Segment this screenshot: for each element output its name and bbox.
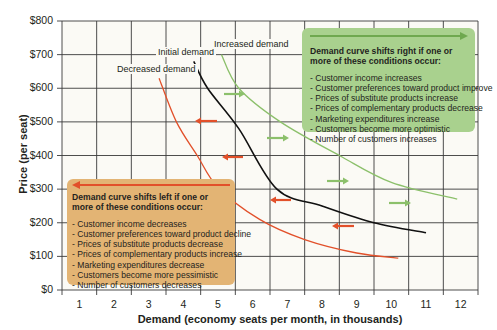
x-tick-label: 9 (347, 298, 367, 310)
left-shift-list: - Customer income decreases- Customer pr… (72, 219, 229, 291)
condition-item: - Customer preferences toward product de… (72, 229, 229, 239)
y-axis-label: Price (per seat) (17, 99, 29, 209)
left-shift-heading: Demand curve shifts left if one or more … (72, 192, 229, 213)
condition-item: - Prices of substitute products decrease (72, 239, 229, 249)
condition-item: - Prices of complementary products decre… (310, 103, 469, 113)
right-shift-heading: Demand curve shifts right if one or more… (310, 46, 469, 67)
x-tick-label: 4 (173, 298, 193, 310)
initial-demand-label: Initial demand (156, 47, 216, 57)
x-tick-label: 7 (277, 298, 297, 310)
x-tick-label: 6 (243, 298, 263, 310)
x-tick-label: 1 (69, 298, 89, 310)
condition-item: - Prices of substitute products increase (310, 93, 469, 103)
x-tick-label: 3 (139, 298, 159, 310)
y-tick-label: $100 (3, 249, 53, 261)
x-tick-label: 11 (416, 298, 436, 310)
condition-item: - Customer income increases (310, 73, 469, 83)
y-tick-label: $800 (3, 14, 53, 26)
y-tick-label: $200 (3, 216, 53, 228)
condition-item: - Customer preferences toward product im… (310, 83, 469, 93)
condition-item: - Prices of complementary products incre… (72, 249, 229, 259)
condition-item: - Number of customers decreases (72, 280, 229, 290)
decreased-demand-label: Decreased demand (115, 64, 198, 74)
condition-item: - Number of customers increases (310, 134, 469, 144)
x-axis-label: Demand (economy seats per month, in thou… (62, 313, 478, 325)
x-tick-label: 2 (104, 298, 124, 310)
condition-item: - Marketing expenditures increase (310, 114, 469, 124)
condition-item: - Customers become more pessimistic (72, 270, 229, 280)
right-shift-conditions-box: Demand curve shifts right if one or more… (302, 28, 475, 132)
x-tick-label: 12 (451, 298, 471, 310)
right-shift-list: - Customer income increases- Customer pr… (310, 73, 469, 145)
increased-demand-label: Increased demand (212, 39, 291, 49)
condition-item: - Customers become more optimistic (310, 124, 469, 134)
right-arrow-icon (308, 31, 470, 41)
condition-item: - Marketing expenditures decrease (72, 260, 229, 270)
left-arrow-icon (70, 180, 232, 190)
y-tick-label: $600 (3, 81, 53, 93)
x-tick-label: 10 (381, 298, 401, 310)
x-tick-label: 8 (312, 298, 332, 310)
x-tick-label: 5 (208, 298, 228, 310)
y-tick-label: $0 (3, 283, 53, 295)
condition-item: - Customer income decreases (72, 219, 229, 229)
left-shift-conditions-box: Demand curve shifts left if one or more … (67, 179, 235, 285)
y-tick-label: $700 (3, 48, 53, 60)
